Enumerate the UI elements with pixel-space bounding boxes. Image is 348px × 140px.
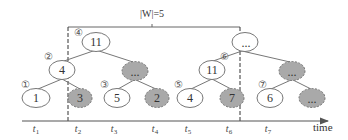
right-left-child-node: 11 [199,61,225,80]
svg-text:...: ... [131,65,140,79]
svg-text:11: 11 [206,63,218,77]
step-4-marker: ④ [74,27,83,38]
tick-t3: t3 [111,123,118,136]
right-root-node: ... [232,33,258,52]
svg-text:4: 4 [59,63,65,77]
left-leaf-1: 1 [22,89,50,108]
left-leaf-3: 5 [104,89,130,108]
svg-text:2: 2 [154,91,160,105]
left-leaf-2-shaded: 3 [68,89,92,108]
tick-t7: t7 [265,123,272,136]
tick-t4: t4 [152,123,159,136]
svg-text:...: ... [308,92,317,106]
right-leaf-1: 4 [177,89,203,108]
left-leaf-4-shaded: 2 [145,89,169,108]
svg-text:11: 11 [90,35,102,49]
right-leaf-4-shaded: ... [299,89,325,108]
left-root-node: 11 [82,33,110,52]
step-2-marker: ② [44,51,53,62]
tick-t1: t1 [33,123,40,136]
svg-text:6: 6 [267,91,273,105]
left-left-child-node: 4 [49,61,75,80]
step-markers: ① ② ③ ④ ⑤ ⑥ ⑦ [21,27,267,90]
step-3-marker: ③ [100,79,109,90]
tick-t2: t2 [75,123,82,136]
time-tick-labels: t1 t2 t3 t4 t5 t6 t7 [33,123,272,136]
window-bracket: |W|=5 [68,8,240,27]
right-leaf-3: 6 [257,89,283,108]
step-5-marker: ⑤ [174,79,183,90]
sliding-window-tree-diagram: |W|=5 11 4 ... 1 3 [0,0,348,140]
tick-t5: t5 [185,123,192,136]
step-6-marker: ⑥ [220,51,229,62]
time-axis-label: time [313,121,333,133]
window-size-label: |W|=5 [140,8,164,19]
svg-text:7: 7 [229,91,235,105]
step-1-marker: ① [21,79,30,90]
right-right-child-node-shaded: ... [279,62,305,81]
svg-text:...: ... [288,65,297,79]
left-right-child-node-shaded: ... [122,62,148,81]
svg-text:4: 4 [187,91,193,105]
svg-text:5: 5 [114,91,120,105]
tick-t6: t6 [226,123,233,136]
svg-text:1: 1 [33,91,39,105]
step-7-marker: ⑦ [258,79,267,90]
right-leaf-2-shaded: 7 [220,89,244,108]
svg-text:3: 3 [77,91,83,105]
svg-text:...: ... [242,36,251,50]
